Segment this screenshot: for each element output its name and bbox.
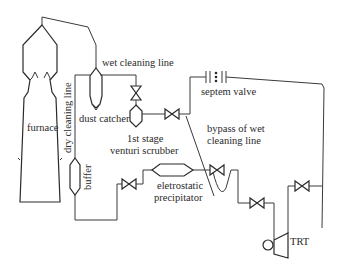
- precipitator-inlet-valve: [122, 179, 136, 189]
- label-precipitator-line1: eletrostatic: [157, 180, 203, 191]
- venturi-scrubber: [130, 105, 142, 127]
- label-bypass-line1: bypass of wet: [207, 123, 265, 134]
- gas-cleaning-diagram: wet cleaning line dust catcher furnace d…: [0, 0, 338, 276]
- wet-line-valve: [131, 86, 141, 100]
- label-furnace: furnace: [27, 122, 59, 133]
- electrostatic-precipitator: [152, 164, 193, 176]
- trt-turbine: [274, 233, 288, 258]
- pipe: [136, 170, 152, 184]
- label-trt: TRT: [290, 236, 310, 247]
- trt-inlet-valve: [250, 198, 264, 208]
- label-bypass-line2: cleaning line: [207, 135, 261, 146]
- label-wet-cleaning-line: wet cleaning line: [102, 57, 174, 68]
- buffer: [70, 158, 80, 195]
- venturi-outlet-valve: [165, 109, 179, 119]
- label-dust-catcher: dust catcher: [79, 113, 130, 124]
- pipe: [264, 203, 274, 240]
- pipe: [288, 186, 295, 233]
- bypass-valve: [210, 165, 224, 175]
- label-venturi-line1: 1st stage: [127, 133, 164, 144]
- label-septem-valve: septem valve: [201, 86, 256, 97]
- label-buffer: buffer: [82, 164, 93, 190]
- furnace: [18, 25, 62, 202]
- generator-icon: [263, 240, 273, 250]
- water-seal-pipe: [213, 170, 250, 203]
- label-venturi-line2: venturi scrubber: [110, 145, 179, 156]
- septem-valve: [206, 71, 226, 83]
- dust-catcher: [90, 68, 102, 110]
- septem-outlet-pipe: [226, 77, 324, 228]
- trt-bypass-valve: [295, 181, 309, 191]
- label-precipitator-line2: precipitator: [154, 192, 203, 203]
- label-dry-cleaning-line: dry cleaning line: [62, 82, 73, 153]
- wet-cleaning-pipe: [100, 75, 136, 86]
